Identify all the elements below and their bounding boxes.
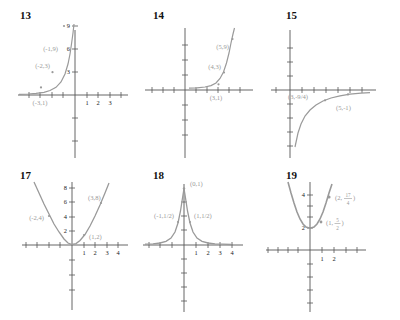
data-point	[40, 86, 42, 88]
y-tick-label: 8	[64, 184, 67, 191]
point-label: (4,3)	[208, 63, 221, 71]
x-tick-label: 3	[218, 249, 221, 256]
data-point	[324, 99, 326, 101]
panel-19: 19	[266, 160, 399, 320]
x-tick-label: 1	[194, 249, 197, 256]
point-label: (-1,1/2)	[154, 212, 174, 220]
x-tick-label: 3	[105, 249, 108, 256]
chart-13: 1 2 3 3 6 9 (-1,9) (-2,3) (-3,1)	[0, 0, 133, 160]
x-tick-label: 2	[206, 249, 209, 256]
point-label: (-1,9)	[43, 45, 58, 53]
axes-15	[271, 30, 376, 158]
panel-17: 17	[0, 160, 133, 320]
point-label: (-2,3)	[35, 62, 50, 70]
point-label-prefix: (1,	[326, 219, 333, 227]
y-tick-label: 3	[67, 68, 70, 75]
data-point	[347, 93, 349, 95]
x-tick-label: 4	[116, 249, 120, 256]
point-label-prefix: (2,	[335, 194, 342, 202]
data-point	[320, 221, 323, 224]
data-point	[83, 234, 85, 236]
point-label-group: (2, 17 4 )	[335, 192, 355, 206]
point-label: (-2,4)	[29, 214, 44, 222]
x-tick-label: 2	[93, 249, 96, 256]
data-point	[183, 187, 185, 189]
chart-14: (5,9) (4,3) (3,1)	[133, 0, 266, 160]
x-tick-label: 2	[332, 255, 335, 262]
data-point	[223, 71, 225, 73]
x-tick-label: 4	[230, 249, 234, 256]
x-tick-label: 1	[82, 249, 85, 256]
point-label: (-3,1)	[33, 99, 48, 107]
point-label: (3,8)	[88, 194, 101, 202]
axes-19	[266, 182, 366, 312]
data-point	[189, 221, 191, 223]
panel-13: 13	[0, 0, 133, 160]
point-label-group: (1, 5 2 )	[326, 217, 344, 231]
x-tick-label: 1	[85, 99, 88, 106]
curve-13	[19, 24, 74, 94]
data-point	[231, 38, 233, 40]
axes-17	[22, 182, 128, 310]
y-tick-label: 4	[64, 213, 68, 220]
point-label-suffix: )	[342, 219, 344, 227]
fraction-numerator: 17	[345, 192, 351, 198]
y-tick-label: 2	[64, 227, 67, 234]
point-label: (1,2)	[89, 233, 102, 241]
data-point	[100, 202, 102, 204]
curve-15	[295, 93, 370, 147]
panel-18: 18	[133, 160, 266, 320]
axes-14	[145, 28, 253, 158]
point-label: (3,-9/4)	[288, 93, 308, 101]
point-label: (5,-1)	[336, 104, 351, 112]
point-label: (0,1)	[190, 180, 203, 188]
data-point	[177, 221, 179, 223]
point-label: (3,1)	[210, 94, 223, 102]
point-label: (1,1/2)	[194, 212, 212, 220]
worksheet-page: 13	[0, 0, 400, 320]
axes-18	[143, 184, 243, 312]
x-tick-label: 3	[108, 99, 111, 106]
panel-15: 15	[266, 0, 399, 160]
x-tick-label: 2	[96, 99, 99, 106]
y-tick-label: 9	[67, 22, 70, 29]
data-point	[327, 195, 330, 198]
y-tick-label: 4	[302, 191, 306, 198]
fraction-denominator: 2	[336, 225, 339, 231]
curve-14	[189, 28, 235, 88]
y-tick-label: 6	[67, 45, 70, 52]
fraction-numerator: 5	[336, 217, 339, 223]
chart-18: 1 2 3 4 (0,1) (-1,1/2) (1,1/2)	[133, 160, 266, 320]
point-label: (5,9)	[216, 43, 229, 51]
panel-14: 14	[133, 0, 266, 160]
data-point	[48, 215, 50, 217]
data-point	[51, 71, 53, 73]
chart-19: 1 2 2 4 (1, 5 2 ) (2, 17	[266, 160, 399, 320]
y-tick-label: 6	[64, 198, 67, 205]
point-label-suffix: )	[353, 194, 355, 202]
fraction-denominator: 4	[347, 200, 350, 206]
x-tick-label: 1	[320, 255, 323, 262]
chart-15: (3,-9/4) (5,-1)	[266, 0, 399, 160]
data-point	[63, 25, 65, 27]
data-point	[217, 83, 219, 85]
chart-17: 1 2 3 4 2 4 6 8 (-2,4) (1,2) (3,8)	[0, 160, 133, 320]
